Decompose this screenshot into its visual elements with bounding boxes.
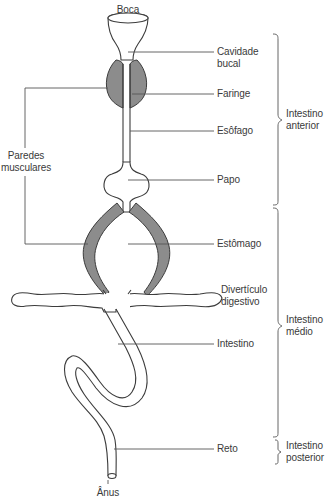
oral-cavity-label: Cavidade bucal (217, 46, 258, 70)
midgut-region-label: Intestino médio (286, 314, 323, 338)
mouth-label: Boca (112, 4, 144, 16)
rectum-label: Reto (217, 443, 238, 455)
digestive-tract-diagram (0, 0, 328, 502)
foregut-region-label: Intestino anterior (286, 108, 323, 132)
hindgut-region-label: Intestino posterior (286, 440, 324, 464)
pharynx-label: Faringe (217, 88, 250, 100)
anus-label: Ânus (94, 487, 122, 499)
diverticulum-shape (12, 290, 222, 312)
muscular-walls-label: Paredes musculares (0, 150, 52, 174)
region-braces (273, 34, 282, 464)
stomach-muscles (83, 203, 170, 296)
mouth-cup-shape (108, 13, 148, 60)
esophagus-label: Esôfago (217, 125, 253, 137)
esophagus-tube (123, 64, 130, 162)
intestine-tube (65, 309, 148, 479)
intestine-label: Intestino (217, 338, 254, 350)
crop-label: Papo (217, 174, 240, 186)
diverticulum-label: Divertículo digestivo (221, 284, 267, 308)
crop-shape (104, 162, 149, 212)
stomach-label: Estômago (217, 238, 261, 250)
pharynx-muscles (106, 60, 146, 108)
